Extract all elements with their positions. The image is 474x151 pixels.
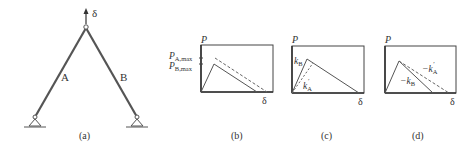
figure-canvas: δ A B (a) P δ PA,max PB,max (b) (0, 0, 474, 151)
member-b-label: B (120, 71, 127, 83)
member-b (86, 28, 137, 117)
panel-b-curve-a (215, 58, 267, 92)
panel-b-caption: (b) (231, 130, 243, 142)
member-a-label: A (61, 71, 69, 83)
panel-b-x-label: δ (262, 95, 267, 106)
panel-d-plot: P δ −kA′ −kB (d) (384, 34, 456, 142)
panel-a-truss: δ A B (a) (24, 7, 148, 142)
softening-kb-label: −kB (400, 76, 416, 87)
panel-c-x-label: δ (358, 96, 363, 107)
right-pin-support-icon (126, 115, 148, 127)
panel-b-y-label: P (200, 34, 207, 45)
panel-b-plot: P δ PA,max PB,max (b) (168, 34, 273, 142)
left-pin-support-icon (24, 115, 46, 127)
panel-c-caption: (c) (321, 130, 332, 142)
load-arrowhead-icon (84, 8, 89, 14)
softening-ka-label: −kA′ (422, 60, 438, 75)
panel-d-loading-line (385, 61, 399, 93)
panel-c-softening-line (307, 59, 359, 93)
stiffness-kb-label: kB (294, 56, 303, 67)
panel-c-plot: P δ kB kA′ (c) (291, 34, 364, 142)
stiffness-ka-label: kA′ (303, 77, 312, 92)
panel-d-x-label: δ (450, 96, 455, 107)
panel-c-y-label: P (291, 34, 298, 45)
apex-hinge-icon (84, 25, 88, 29)
load-label: δ (92, 7, 97, 19)
tick-label-pb-max: PB,max (168, 61, 193, 72)
panel-d-y-label: P (384, 34, 391, 45)
panel-d-caption: (d) (412, 130, 424, 142)
panel-b-curve-b (201, 64, 257, 92)
panel-a-caption: (a) (79, 130, 90, 142)
